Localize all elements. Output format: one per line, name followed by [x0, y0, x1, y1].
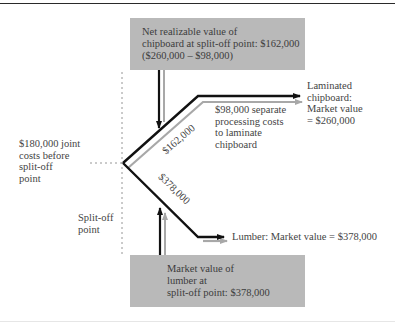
lumber-market-value-line: split-off point: $378,000: [167, 287, 270, 299]
laminated-line: Laminated: [307, 80, 363, 92]
chipboard-nrv-line: chipboard at split-off point: $162,000: [142, 38, 300, 50]
laminated-line: = $260,000: [307, 115, 363, 127]
joint-costs-line: $180,000 joint: [19, 138, 80, 150]
laminated-line: chipboard:: [307, 92, 363, 104]
laminated-line: Market value: [307, 103, 363, 115]
laminated-chipboard-label: Laminated chipboard: Market value = $260…: [307, 80, 363, 126]
split-off-point-label: Split-off point: [78, 212, 113, 235]
bottom-rule: [0, 321, 395, 322]
chipboard-nrv-line: ($260,000 – $98,000): [142, 50, 300, 62]
joint-costs-line: costs before: [19, 150, 80, 162]
chipboard-nrv-box: Net realizable value of chipboard at spl…: [130, 18, 305, 70]
split-off-line: Split-off: [78, 212, 113, 224]
down-arrow-from-top-box: [159, 70, 164, 128]
joint-costs-line: point: [19, 173, 80, 185]
separate-processing-costs-label: $98,000 separate processing costs to lam…: [215, 104, 286, 150]
split-off-line: point: [78, 224, 113, 236]
lumber-market-value-line: lumber at: [167, 275, 270, 287]
separate-costs-line: chipboard: [215, 139, 286, 151]
lumber-market-value-box: Market value of lumber at split-off poin…: [130, 255, 305, 307]
joint-costs-line: split-off: [19, 161, 80, 173]
separate-costs-line: $98,000 separate: [215, 104, 286, 116]
separate-costs-line: processing costs: [215, 116, 286, 128]
chipboard-nrv-line: Net realizable value of: [142, 26, 300, 38]
lumber-market-value-label: Lumber: Market value = $378,000: [232, 231, 377, 243]
up-arrow-from-bottom-box: [160, 208, 165, 255]
separate-costs-line: to laminate: [215, 127, 286, 139]
joint-costs-label: $180,000 joint costs before split-off po…: [19, 138, 80, 184]
lower-branch: [123, 163, 227, 241]
lumber-market-value-line: Market value of: [167, 263, 270, 275]
